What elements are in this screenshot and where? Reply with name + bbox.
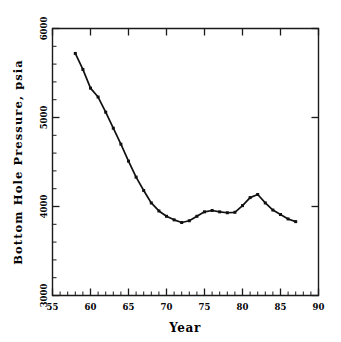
- y-axis-title: Bottom Hole Pressure, psia: [11, 59, 25, 265]
- data-point-marker: [81, 68, 84, 71]
- x-tick-label: 70: [161, 302, 173, 312]
- x-tick-label: 60: [85, 302, 97, 312]
- data-point-marker: [165, 215, 168, 218]
- data-point-marker: [218, 210, 221, 213]
- data-point-marker: [294, 220, 297, 223]
- x-tick-label: 65: [123, 302, 135, 312]
- x-tick-label: 80: [237, 302, 249, 312]
- data-point-marker: [119, 143, 122, 146]
- data-point-marker: [180, 221, 183, 224]
- data-point-marker: [249, 196, 252, 199]
- y-tick-label: 3000: [39, 284, 49, 308]
- y-tick-label: 5000: [39, 106, 49, 130]
- data-point-marker: [104, 111, 107, 114]
- data-point-marker: [256, 193, 259, 196]
- data-point-marker: [89, 87, 92, 90]
- data-point-marker: [142, 189, 145, 192]
- data-point-marker: [127, 160, 130, 163]
- data-point-marker: [279, 213, 282, 216]
- x-tick-label: 85: [275, 302, 287, 312]
- data-point-marker: [74, 52, 77, 55]
- y-tick-label: 6000: [39, 17, 49, 41]
- data-point-marker: [233, 211, 236, 214]
- x-axis-title: Year: [168, 321, 201, 335]
- data-point-marker: [203, 210, 206, 213]
- data-point-marker: [157, 209, 160, 212]
- chart-plot-area: 5560657075808590 3000400050006000 Year B…: [0, 0, 341, 342]
- x-tick-label: 75: [199, 302, 211, 312]
- data-point-marker: [287, 217, 290, 220]
- data-point-marker: [226, 211, 229, 214]
- chart-figure: 5560657075808590 3000400050006000 Year B…: [0, 0, 341, 342]
- chart-background: [0, 0, 341, 342]
- data-point-marker: [264, 201, 267, 204]
- y-tick-label: 4000: [39, 195, 49, 219]
- data-point-marker: [150, 201, 153, 204]
- data-point-marker: [195, 215, 198, 218]
- data-point-marker: [97, 96, 100, 99]
- data-point-marker: [211, 209, 214, 212]
- data-point-marker: [173, 218, 176, 221]
- data-point-marker: [112, 127, 115, 130]
- data-point-marker: [188, 219, 191, 222]
- data-point-marker: [241, 204, 244, 207]
- data-point-marker: [135, 176, 138, 179]
- x-tick-label: 90: [313, 302, 325, 312]
- data-point-marker: [271, 209, 274, 212]
